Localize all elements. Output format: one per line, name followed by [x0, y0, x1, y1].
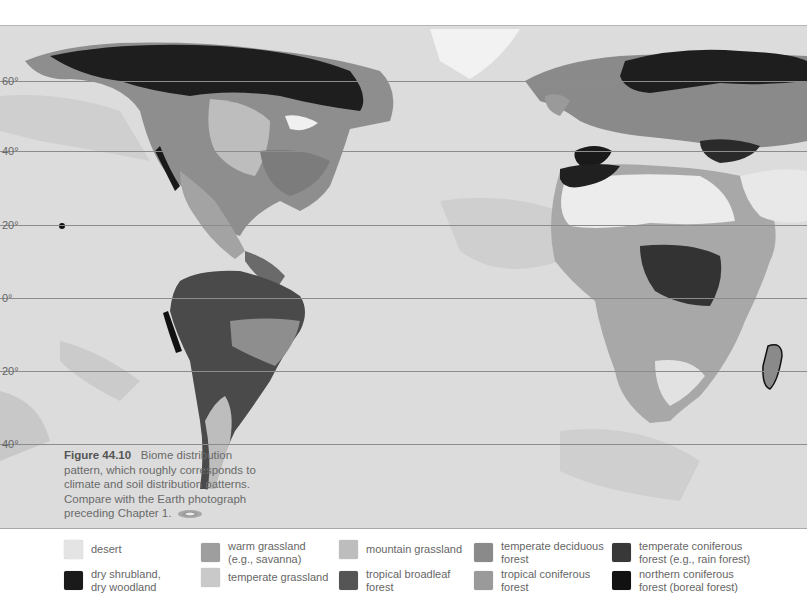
legend-item-warm-grassland: warm grassland (e.g., savanna)	[201, 540, 306, 565]
legend-item-mountain-grassland: mountain grassland	[339, 540, 462, 559]
temperate-grassland-swatch	[201, 568, 220, 587]
legend-label: temperate grassland	[228, 571, 328, 584]
legend-label: temperate deciduous forest	[501, 540, 604, 565]
desert-swatch	[64, 540, 83, 559]
latitude-line-equator	[0, 298, 807, 299]
legend-item-temperate-deciduous: temperate deciduous forest	[474, 540, 604, 565]
mountain-grassland-swatch	[339, 540, 358, 559]
legend-label: dry shrubland, dry woodland	[91, 568, 161, 593]
warm-grassland-swatch	[201, 543, 220, 562]
legend-item-dry-shrubland: dry shrubland, dry woodland	[64, 568, 161, 593]
latitude-line-40s	[0, 444, 807, 445]
legend-label: warm grassland (e.g., savanna)	[228, 540, 306, 565]
legend-item-tropical-coniferous: tropical coniferous forest	[474, 568, 590, 593]
legend-label: tropical broadleaf forest	[366, 568, 450, 593]
northern-coniferous-swatch	[612, 571, 631, 590]
latitude-label-20n: 20°	[2, 219, 19, 231]
temperate-deciduous-swatch	[474, 543, 493, 562]
latitude-label-equator: 0°	[2, 292, 13, 304]
tropical-broadleaf-swatch	[339, 571, 358, 590]
latitude-line-40n	[0, 151, 807, 152]
dry-shrubland-swatch	[64, 571, 83, 590]
figure-caption: Figure 44.10 Biome distribution pattern,…	[64, 448, 264, 521]
legend-label: desert	[91, 543, 122, 556]
latitude-line-20n	[0, 225, 807, 226]
latitude-label-60n: 60°	[2, 75, 19, 87]
temperate-coniferous-swatch	[612, 543, 631, 562]
legend-label: northern coniferous forest (boreal fores…	[639, 568, 738, 593]
legend-label: mountain grassland	[366, 543, 462, 556]
legend-item-northern-coniferous: northern coniferous forest (boreal fores…	[612, 568, 738, 593]
latitude-label-40n: 40°	[2, 145, 19, 157]
legend-item-temperate-coniferous: temperate coniferous forest (e.g., rain …	[612, 540, 750, 565]
legend-label: temperate coniferous forest (e.g., rain …	[639, 540, 750, 565]
legend-label: tropical coniferous forest	[501, 568, 590, 593]
legend-item-tropical-broadleaf: tropical broadleaf forest	[339, 568, 450, 593]
latitude-label-20s: 20°	[2, 365, 19, 377]
cd-rom-icon[interactable]	[178, 510, 202, 518]
legend-item-desert: desert	[64, 540, 122, 559]
latitude-line-60n	[0, 81, 807, 82]
figure-number: Figure 44.10	[64, 449, 131, 461]
biome-legend: desert dry shrubland, dry woodland warm …	[0, 535, 807, 605]
legend-item-temperate-grassland: temperate grassland	[201, 568, 328, 587]
latitude-label-40s: 40°	[2, 438, 19, 450]
latitude-line-20s	[0, 371, 807, 372]
tropical-coniferous-swatch	[474, 571, 493, 590]
